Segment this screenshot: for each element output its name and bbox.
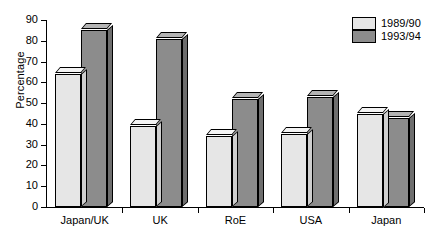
bar [357,114,383,208]
bar-group [198,20,273,207]
bar-side-face [232,131,238,207]
bar-front-face [130,126,156,207]
x-axis-label: RoE [198,214,273,226]
y-axis-tick-label: 50 [14,103,38,104]
bar-side-face [156,121,162,207]
x-axis-label: Japan/UK [47,214,122,226]
x-axis-separator-tick [424,208,425,213]
x-axis-line [46,207,424,208]
bar [206,136,232,207]
bar-front-face [281,134,307,207]
bar-side-face [333,92,339,207]
bar-top-face [156,32,187,38]
legend-item: 1993/94 [352,30,430,43]
light-gray-swatch [352,17,376,30]
legend: 1989/90 1993/94 [352,17,430,43]
bar-top-face [307,90,338,96]
bar-side-face [182,34,188,207]
bar [130,126,156,207]
x-axis-label: UK [122,214,197,226]
bar-front-face [206,136,232,207]
bar-side-face [383,108,389,207]
x-axis-separator-tick [273,208,274,213]
bar-front-face [55,74,81,207]
legend-item-label: 1989/90 [381,18,421,29]
bar-side-face [258,94,264,207]
x-axis-separator-tick [198,208,199,213]
bar-side-face [81,69,87,207]
bar-side-face [307,129,313,207]
y-axis-tick-label: 0 [14,207,38,208]
y-axis-tick-label: 40 [14,124,38,125]
bar-top-face [357,107,388,113]
y-axis-tick-label: 80 [14,41,38,42]
bar-top-face [232,92,263,98]
bar [55,74,81,207]
dark-gray-swatch [352,30,376,43]
bar-top-face [206,129,237,135]
y-axis-tick-label: 20 [14,165,38,166]
y-axis-tick-label: 60 [14,82,38,83]
plot-area [47,20,424,207]
bar-chart: Percentage 9080706050403020100 Japan/UKU… [0,0,431,232]
legend-item-label: 1993/94 [381,31,421,42]
bar-group [273,20,348,207]
bar-top-face [55,67,86,73]
bar-side-face [409,113,415,207]
x-axis-label: USA [273,214,348,226]
bar [281,134,307,207]
bar-group [349,20,424,207]
bar-side-face [107,25,113,207]
y-axis-tick-label: 10 [14,186,38,187]
y-axis-tick-label: 70 [14,62,38,63]
x-axis-separator-tick [122,208,123,213]
y-axis-tick-label: 30 [14,145,38,146]
y-axis-tick-label: 90 [14,20,38,21]
bar-group [47,20,122,207]
x-axis-separator-tick [349,208,350,213]
bar-top-face [130,119,161,125]
bar-group [122,20,197,207]
x-axis-label: Japan [349,214,424,226]
legend-item: 1989/90 [352,17,430,30]
bar-front-face [357,114,383,208]
bar-top-face [81,23,112,29]
